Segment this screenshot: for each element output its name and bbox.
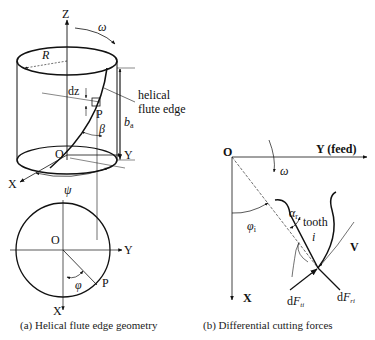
panel-a-helical-geometry: Z ω R helical flute edge dz P β ba O Y <box>8 7 186 332</box>
bottom-point-p-label: P <box>102 276 109 290</box>
bottom-x-axis-label: X <box>53 304 62 318</box>
dz-label: dz <box>68 84 79 98</box>
bottom-projection <box>10 200 122 310</box>
phi-i-label: φi <box>247 219 257 234</box>
helical-label-line1: helical <box>138 88 171 102</box>
tooth-flank <box>318 192 336 268</box>
radius-line <box>25 61 67 68</box>
omega-b-arrow <box>269 140 274 172</box>
alpha-r-label: αr <box>289 206 298 221</box>
helical-label-line2: flute edge <box>138 102 186 116</box>
tooth-label: tooth <box>303 215 328 229</box>
omega-label: ω <box>98 20 106 34</box>
bottom-y-axis-label: Y <box>124 243 133 257</box>
psi-label: ψ <box>64 183 72 197</box>
beta-label: β <box>98 122 105 136</box>
origin-b-label: O <box>223 145 232 159</box>
z-axis-label: Z <box>62 7 69 21</box>
phi-arc <box>67 271 83 278</box>
y-feed-label: Y (feed) <box>316 142 357 156</box>
x-axis-label: X <box>8 177 17 191</box>
y-axis-label: Y <box>124 148 133 162</box>
dF-ti-arrow <box>290 269 317 290</box>
ba-label: ba <box>124 115 134 130</box>
bottom-origin-label: O <box>51 233 60 247</box>
dF-ri-label: dFri <box>337 290 355 305</box>
radius-label: R <box>41 48 50 62</box>
figure-canvas: Z ω R helical flute edge dz P β ba O Y <box>0 0 375 340</box>
phi-i-arc <box>232 203 268 213</box>
panel-b-cutting-forces: O Y (feed) X ω φi αr tooth i V dFti dFri… <box>203 140 367 332</box>
velocity-label: V <box>350 240 359 254</box>
phi-label: φ <box>75 278 82 292</box>
x-axis-b-label: X <box>243 291 252 305</box>
flute-edge-leader <box>104 88 135 102</box>
dF-ri-line <box>318 268 340 290</box>
omega-rotation-arrow <box>75 28 115 44</box>
tooth-i-label: i <box>312 230 315 244</box>
chip-outline <box>292 242 308 277</box>
caption-b: (b) Differential cutting forces <box>203 319 333 332</box>
omega-b-label: ω <box>280 164 288 178</box>
caption-a: (a) Helical flute edge geometry <box>20 319 158 332</box>
dF-ti-label: dFti <box>287 294 304 309</box>
